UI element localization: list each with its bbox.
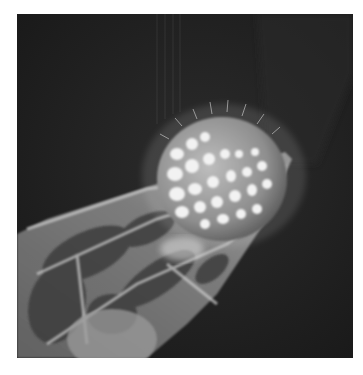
micrograph-frame: [17, 14, 353, 358]
sem-micrograph: [17, 14, 353, 358]
